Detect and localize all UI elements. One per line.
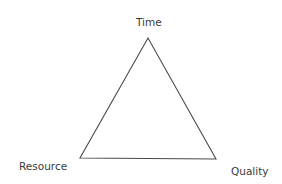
triangle-outline [80, 38, 216, 159]
triangle-diagram: Time Resource Quality [0, 0, 282, 184]
vertex-label-resource: Resource [19, 160, 67, 172]
vertex-label-quality: Quality [231, 165, 269, 177]
vertex-label-time: Time [136, 16, 162, 28]
